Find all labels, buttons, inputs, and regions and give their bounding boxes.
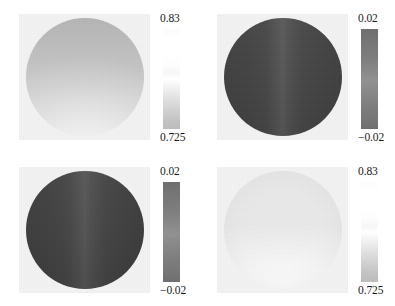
colorbar-bottom-right: 0.83 0.725 [358,165,394,303]
panel-bottom-left: 0.02 −0.02 [0,153,197,306]
map-frame-top-right [217,14,348,140]
colorbar-min-label: 0.725 [358,284,395,296]
colorbar-top-left: 0.83 0.725 [160,12,196,150]
circular-map-bottom-right [224,171,342,289]
circular-map-bottom-left [26,171,144,289]
colorbar-bottom-left: 0.02 −0.02 [160,165,196,303]
circular-map-top-left [26,18,144,136]
colorbar-min-label: −0.02 [160,284,200,296]
circular-map-top-right [224,18,342,136]
colorbar-max-label: 0.83 [358,165,395,177]
colorbar-gradient [163,182,180,282]
panel-top-left: 0.83 0.725 [0,0,197,153]
colorbar-gradient [361,182,378,282]
colorbar-max-label: 0.02 [358,12,395,24]
panel-bottom-right: 0.83 0.725 [198,153,395,306]
colorbar-max-label: 0.02 [160,165,200,177]
colorbar-gradient [361,29,378,129]
colorbar-max-label: 0.83 [160,12,200,24]
map-frame-bottom-left [19,167,150,293]
colorbar-min-label: −0.02 [358,131,395,143]
panel-top-right: 0.02 −0.02 [198,0,395,153]
map-frame-top-left [19,14,150,140]
figure-grid: 0.83 0.725 0.02 −0.02 0.02 −0.02 [0,0,395,306]
colorbar-gradient [163,29,180,129]
colorbar-top-right: 0.02 −0.02 [358,12,394,150]
map-frame-bottom-right [217,167,348,293]
colorbar-min-label: 0.725 [160,131,200,143]
